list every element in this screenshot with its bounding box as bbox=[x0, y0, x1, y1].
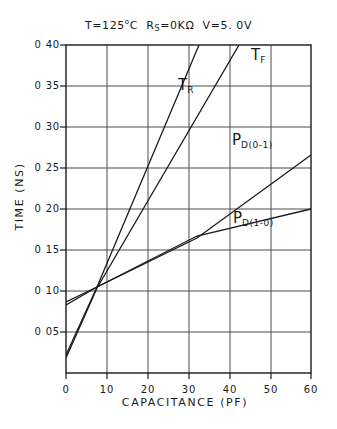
xtick-label-10: 10 bbox=[100, 384, 114, 395]
ytick-label-020-wrap: 0 20 bbox=[22, 204, 60, 214]
curve-label-tr: TR bbox=[178, 78, 194, 98]
ytick-label-015: 0 15 bbox=[26, 245, 60, 255]
ytick-label-030: 0 30 bbox=[26, 122, 60, 132]
curve-tf bbox=[66, 45, 239, 358]
curve-label-pd-1-0: PD(1-0) bbox=[233, 211, 274, 231]
figure-container: T=125oC RS=0KΩ V=5. 0V bbox=[0, 0, 337, 429]
ytick-label-015-wrap: 0 15 bbox=[22, 245, 60, 255]
xtick-label-20-wrap: 20 bbox=[133, 378, 163, 390]
y-axis-label: TIME (NS) bbox=[13, 137, 26, 257]
xtick-label-50-wrap: 50 bbox=[256, 378, 286, 390]
ytick-label-025: 0 25 bbox=[26, 163, 60, 173]
ytick-label-010: 0 10 bbox=[26, 286, 60, 296]
ytick-label-035-wrap: 0 35 bbox=[22, 81, 60, 91]
xtick-label-30-wrap: 30 bbox=[174, 378, 204, 390]
xtick-label-0-wrap: 0 bbox=[51, 378, 81, 390]
curve-label-tf: TF bbox=[251, 48, 266, 68]
xtick-label-60-wrap: 60 bbox=[296, 378, 326, 390]
curve-label-pd-1-0-main: P bbox=[233, 209, 242, 227]
ytick-label-005: 0 05 bbox=[26, 327, 60, 337]
ytick-label-040-wrap: 0 40 bbox=[22, 40, 60, 50]
xtick-label-10-wrap: 10 bbox=[92, 378, 122, 390]
ytick-label-010-wrap: 0 10 bbox=[22, 286, 60, 296]
ytick-label-040: 0 40 bbox=[26, 40, 60, 50]
curve-label-pd-0-1-sub: D(0-1) bbox=[241, 140, 273, 150]
xtick-label-40-wrap: 40 bbox=[215, 378, 245, 390]
ytick-label-025-wrap: 0 25 bbox=[22, 163, 60, 173]
plot-area bbox=[0, 0, 337, 429]
curve-label-tr-main: T bbox=[178, 76, 187, 94]
xtick-label-0: 0 bbox=[62, 384, 69, 395]
curve-label-tr-sub: R bbox=[187, 85, 194, 95]
curve-label-pd-1-0-sub: D(1-0) bbox=[242, 218, 274, 228]
curve-label-tf-sub: F bbox=[260, 55, 266, 65]
ytick-label-035: 0 35 bbox=[26, 81, 60, 91]
curve-label-pd-0-1: PD(0-1) bbox=[232, 133, 273, 153]
xtick-label-30: 30 bbox=[182, 384, 196, 395]
xtick-label-20: 20 bbox=[141, 384, 155, 395]
xtick-label-50: 50 bbox=[264, 384, 278, 395]
ytick-label-005-wrap: 0 05 bbox=[22, 327, 60, 337]
curve-label-tf-main: T bbox=[251, 46, 260, 64]
xtick-label-40: 40 bbox=[223, 384, 237, 395]
curve-label-pd-0-1-main: P bbox=[232, 131, 241, 149]
ytick-label-030-wrap: 0 30 bbox=[22, 122, 60, 132]
ytick-label-020: 0 20 bbox=[26, 204, 60, 214]
xtick-label-60: 60 bbox=[304, 384, 318, 395]
x-axis-label: CAPACITANCE (PF) bbox=[60, 396, 310, 409]
